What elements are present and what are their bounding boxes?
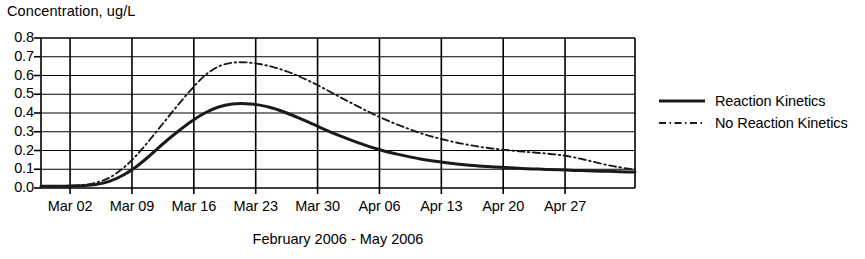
legend-line-swatch	[658, 116, 706, 130]
chart-legend: Reaction KineticsNo Reaction Kinetics	[658, 90, 863, 134]
y-tick-label: 0.2	[0, 142, 34, 158]
concentration-line-chart: Concentration, ug/L 0.80.70.60.50.40.30.…	[0, 0, 865, 259]
x-tick-label: Apr 27	[525, 198, 605, 214]
y-tick-label: 0.6	[0, 67, 34, 83]
gridlines	[41, 38, 635, 188]
y-tick-label: 0.5	[0, 85, 34, 101]
y-tick-label: 0.4	[0, 104, 34, 120]
y-tick-label: 0.1	[0, 160, 34, 176]
axis-ticks	[34, 38, 565, 194]
legend-label: No Reaction Kinetics	[715, 115, 848, 131]
legend-line-swatch	[658, 94, 706, 108]
y-tick-label: 0.0	[0, 179, 34, 195]
legend-label: Reaction Kinetics	[715, 93, 825, 109]
series-line-2	[41, 62, 635, 186]
x-axis-title: February 2006 - May 2006	[0, 231, 676, 247]
series-line-1	[41, 104, 635, 187]
y-tick-label: 0.7	[0, 48, 34, 64]
legend-item: No Reaction Kinetics	[658, 112, 863, 134]
series-lines	[41, 62, 635, 186]
legend-item: Reaction Kinetics	[658, 90, 863, 112]
y-tick-label: 0.8	[0, 29, 34, 45]
y-tick-label: 0.3	[0, 123, 34, 139]
